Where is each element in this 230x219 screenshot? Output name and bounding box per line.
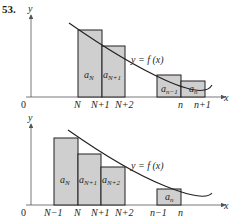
curve-label: y = f (x) [130, 160, 164, 172]
svg-text:N: N [73, 207, 82, 218]
y-axis-label: y [27, 112, 33, 123]
svg-text:N+1: N+1 [90, 99, 109, 110]
integral-test-diagram: 53. y x 0 y = f (x) aN aN+1 an−1 an N N+… [0, 0, 230, 219]
problem-number: 53. [2, 3, 16, 15]
top-figure: y x 0 y = f (x) aN aN+1 an−1 an N N+1 N+… [21, 3, 229, 110]
origin-label: 0 [21, 207, 26, 218]
svg-text:N+2: N+2 [114, 207, 133, 218]
svg-text:N+1: N+1 [90, 207, 109, 218]
origin-label: 0 [21, 99, 26, 110]
y-axis-label: y [27, 3, 33, 14]
svg-text:n−1: n−1 [150, 207, 167, 218]
svg-text:n: n [178, 207, 183, 218]
x-tick-labels: N N+1 N+2 n n+1 [73, 99, 211, 110]
svg-text:N: N [73, 99, 82, 110]
svg-text:n+1: n+1 [194, 99, 211, 110]
bar-a-N [78, 30, 102, 97]
svg-text:N+2: N+2 [114, 99, 133, 110]
bottom-figure: y x 0 y = f (x) aN aN+1 aN+2 an N−1 N N+… [21, 112, 229, 218]
svg-text:n: n [178, 99, 183, 110]
x-axis-label: x [223, 200, 229, 211]
bar-a-N [54, 138, 78, 205]
curve-label: y = f (x) [130, 54, 164, 66]
x-axis-label: x [223, 92, 229, 103]
x-tick-labels: N−1 N N+1 N+2 n−1 n [43, 207, 183, 218]
svg-text:N−1: N−1 [43, 207, 62, 218]
